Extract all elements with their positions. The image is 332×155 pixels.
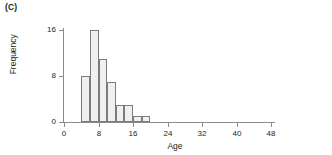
histogram-bar	[90, 30, 99, 122]
x-tick-48	[271, 123, 272, 127]
x-axis-title: Age	[145, 142, 205, 151]
x-tick-24	[168, 123, 169, 127]
x-tick-0	[64, 123, 65, 127]
histogram-bar	[81, 76, 90, 122]
y-tick-label-8: 8	[34, 72, 56, 80]
y-axis-title: Frequency	[9, 24, 18, 84]
y-tick-0	[59, 122, 63, 123]
y-tick-8	[59, 76, 63, 77]
x-tick-8	[99, 123, 100, 127]
y-tick-16	[59, 30, 63, 31]
x-tick-label-24: 24	[156, 130, 180, 138]
x-tick-32	[202, 123, 203, 127]
x-tick-40	[237, 123, 238, 127]
x-tick-label-16: 16	[121, 130, 145, 138]
y-tick-label-0: 0	[34, 118, 56, 126]
y-tick-label-16: 16	[34, 26, 56, 34]
x-tick-label-48: 48	[259, 130, 283, 138]
x-tick-label-8: 8	[87, 130, 111, 138]
histogram-plot-area: 16 8 0 0 8 16 24 32 40 48 Frequency Age	[0, 0, 332, 155]
histogram-bar	[133, 116, 142, 122]
x-tick-label-0: 0	[52, 130, 76, 138]
histogram-bar	[116, 105, 125, 122]
x-tick-label-40: 40	[225, 130, 249, 138]
x-axis-line	[63, 122, 275, 123]
histogram-bar	[99, 59, 108, 122]
x-tick-label-32: 32	[190, 130, 214, 138]
histogram-bar	[142, 116, 151, 122]
figure-panel-c: (C) 16 8 0 0 8 16 24 32 40 48 Frequency …	[0, 0, 332, 155]
histogram-bar	[124, 105, 133, 122]
histogram-bar	[107, 82, 116, 122]
y-axis-line	[63, 28, 64, 123]
x-tick-16	[133, 123, 134, 127]
